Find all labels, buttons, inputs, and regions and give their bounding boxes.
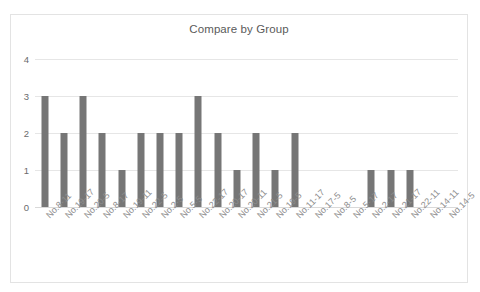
bar-slot (400, 59, 419, 207)
bar-slot (54, 59, 73, 207)
chart-container: Compare by Group 01234 No.8-11No.19-17No… (10, 14, 468, 283)
x-axis-label-slot: No.2-5 (150, 211, 169, 281)
y-axis-tick-label: 2 (24, 128, 29, 139)
x-axis-label-slot: No.8-5 (323, 211, 342, 281)
bar-slot (439, 59, 458, 207)
x-axis-label-slot: No.5-5 (170, 211, 189, 281)
x-axis-label-slot: No.21-17 (381, 211, 400, 281)
y-axis-tick-label: 3 (24, 91, 29, 102)
bar-slot (150, 59, 169, 207)
x-axis-label-slot: No.20-11 (227, 211, 246, 281)
bar-slot (323, 59, 342, 207)
x-axis-label-slot: No.8-17 (93, 211, 112, 281)
x-axis-label-slot: No.5-17 (343, 211, 362, 281)
bar-slot (343, 59, 362, 207)
plot-area: 01234 (35, 59, 458, 207)
x-axis-labels: No.8-11No.19-17No.20-5No.8-17No.19-11No.… (35, 211, 458, 281)
x-axis-label-slot: No.14-5 (439, 211, 458, 281)
bar-slot (73, 59, 92, 207)
x-axis-label-slot: No.22-11 (400, 211, 419, 281)
bar-slot (227, 59, 246, 207)
bar-slot (189, 59, 208, 207)
bar-slot (93, 59, 112, 207)
bar-slot (170, 59, 189, 207)
chart-title: Compare by Group (11, 23, 467, 35)
bar-series (35, 59, 458, 207)
x-axis-label-slot: No.21-5 (247, 211, 266, 281)
x-axis-label-slot: No.8-11 (35, 211, 54, 281)
bar-slot (131, 59, 150, 207)
bar[interactable] (195, 96, 202, 207)
bar-slot (420, 59, 439, 207)
y-axis-tick-label: 4 (24, 54, 29, 65)
x-axis-label-slot: No.19-5 (266, 211, 285, 281)
bar-slot (304, 59, 323, 207)
bar-slot (112, 59, 131, 207)
x-axis-label-slot: No.22-5 (131, 211, 150, 281)
y-axis-tick-label: 0 (24, 202, 29, 213)
x-axis-label-slot: No.19-11 (112, 211, 131, 281)
y-axis-tick-label: 1 (24, 165, 29, 176)
x-axis-label-slot: No.22-17 (189, 211, 208, 281)
x-axis-label-slot: No.17-5 (304, 211, 323, 281)
bar-slot (35, 59, 54, 207)
x-axis-label-slot: No.20-17 (208, 211, 227, 281)
bar-slot (266, 59, 285, 207)
x-axis-label-slot: No.2-17 (362, 211, 381, 281)
bar-slot (362, 59, 381, 207)
x-axis-label-slot: No.11-17 (285, 211, 304, 281)
bar-slot (285, 59, 304, 207)
bar[interactable] (41, 96, 48, 207)
x-axis-label-slot: No.19-17 (54, 211, 73, 281)
bar-slot (381, 59, 400, 207)
bar-slot (208, 59, 227, 207)
x-axis-label-slot: No.14-11 (420, 211, 439, 281)
x-axis-label-slot: No.20-5 (73, 211, 92, 281)
bar-slot (247, 59, 266, 207)
